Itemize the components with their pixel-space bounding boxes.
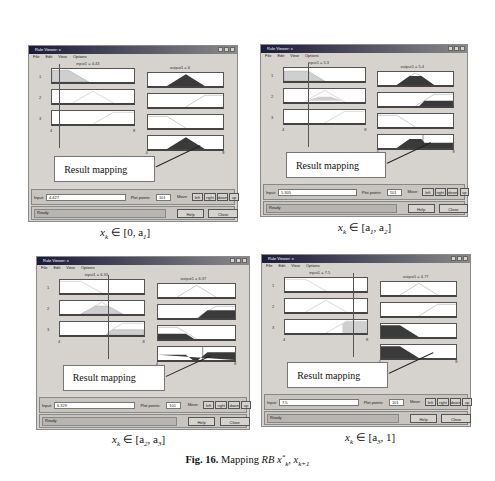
help-button[interactable]: Help <box>177 209 204 218</box>
help-button[interactable]: Help <box>410 414 437 423</box>
menu-edit[interactable]: Edit <box>45 54 52 60</box>
close-window-button[interactable] <box>230 47 235 52</box>
minimize-button[interactable] <box>218 47 223 52</box>
close-button[interactable]: Close <box>439 204 468 213</box>
minimize-button[interactable] <box>230 258 235 263</box>
input-field[interactable]: 5.305 <box>278 189 357 196</box>
move-down-button[interactable]: down <box>450 398 462 406</box>
input-cursor-line[interactable] <box>308 63 309 147</box>
help-button[interactable]: Help <box>408 204 435 213</box>
output-axis-max: 8 <box>234 361 236 366</box>
input-mf-plot[interactable] <box>284 277 368 293</box>
menu-options[interactable]: Options <box>305 53 319 59</box>
maximize-button[interactable] <box>457 256 462 261</box>
output-axis-max: 8 <box>452 149 454 154</box>
move-right-button[interactable]: right <box>435 188 446 196</box>
input-mf-plot[interactable] <box>59 300 145 316</box>
status-panel: Ready Help Close <box>39 414 247 428</box>
input-cursor-line[interactable] <box>353 273 354 357</box>
input-mf-plot[interactable] <box>51 68 135 84</box>
output-mf-plot[interactable] <box>147 93 225 109</box>
input-mf-plot[interactable] <box>59 279 145 295</box>
window-title: Rule Viewer: x <box>267 45 293 53</box>
rule-viewer-window-3: Rule Viewer: x File Edit View Options in… <box>36 256 250 430</box>
output-mf-plot[interactable] <box>380 281 458 297</box>
move-left-button[interactable]: left <box>203 401 215 409</box>
menu-edit[interactable]: Edit <box>278 263 285 269</box>
output-mf-plot[interactable] <box>377 92 454 108</box>
close-window-button[interactable] <box>463 256 468 261</box>
maximize-button[interactable] <box>224 47 229 52</box>
move-left-button[interactable]: left <box>425 398 437 406</box>
menu-file[interactable]: File <box>265 53 271 59</box>
move-right-button[interactable]: right <box>437 398 449 406</box>
close-window-button[interactable] <box>460 46 465 51</box>
input-mf-plot[interactable] <box>284 298 368 314</box>
minimize-button[interactable] <box>451 256 456 261</box>
status-panel: Ready Help Close <box>31 206 235 220</box>
input-cursor-line[interactable] <box>108 275 109 359</box>
menu-view[interactable]: View <box>291 263 300 269</box>
plot-points-field[interactable]: 101 <box>156 194 171 201</box>
input-field[interactable]: 4.427 <box>46 194 126 201</box>
output-mf-plot[interactable] <box>147 72 225 88</box>
close-button[interactable]: Close <box>208 209 237 218</box>
callout-pointer-icon <box>388 350 434 376</box>
output-mf-plot[interactable] <box>157 304 236 320</box>
close-window-button[interactable] <box>242 258 247 263</box>
input-cursor-line[interactable] <box>59 64 60 148</box>
minimize-button[interactable] <box>448 46 453 51</box>
move-left-button[interactable]: left <box>422 188 433 196</box>
menu-file[interactable]: File <box>33 54 39 60</box>
move-right-button[interactable]: right <box>215 401 227 409</box>
input-mf-plot[interactable] <box>283 67 366 83</box>
move-up-button[interactable]: up <box>460 188 469 196</box>
input-mf-plot[interactable] <box>283 88 366 104</box>
close-button[interactable]: Close <box>441 414 470 423</box>
input-field[interactable]: 6.329 <box>54 402 135 409</box>
plot-points-field[interactable]: 101 <box>389 399 404 406</box>
move-up-button[interactable]: up <box>229 193 238 201</box>
output-mf-plot[interactable] <box>147 114 225 130</box>
plot-points-field[interactable]: 101 <box>166 402 181 409</box>
output-mf-plot[interactable] <box>157 325 236 341</box>
input-mf-plot[interactable] <box>283 109 366 125</box>
menu-options[interactable]: Options <box>81 265 95 271</box>
move-up-button[interactable]: up <box>241 401 251 409</box>
close-button[interactable]: Close <box>220 417 250 426</box>
output-mf-plot[interactable] <box>377 113 454 129</box>
menu-view[interactable]: View <box>58 54 67 60</box>
output-mf-plot[interactable] <box>157 283 236 299</box>
membership-function-icon <box>60 280 144 293</box>
menu-options[interactable]: Options <box>306 263 320 269</box>
membership-function-icon <box>284 68 365 81</box>
menu-edit[interactable]: Edit <box>53 265 60 271</box>
membership-function-icon <box>378 93 453 106</box>
output-mf-plot[interactable] <box>380 302 458 318</box>
input-mf-plot[interactable] <box>284 319 368 335</box>
move-left-button[interactable]: left <box>192 193 204 201</box>
input-mf-plot[interactable] <box>51 110 135 126</box>
rule-number: 3 <box>272 325 274 330</box>
input-mf-plot[interactable] <box>59 321 145 337</box>
plot-points-field[interactable]: 101 <box>387 189 402 196</box>
move-down-button[interactable]: down <box>217 193 229 201</box>
output-mf-plot[interactable] <box>377 71 454 87</box>
menu-options[interactable]: Options <box>73 54 87 60</box>
move-down-button[interactable]: down <box>447 188 458 196</box>
menu-edit[interactable]: Edit <box>277 53 284 59</box>
menu-view[interactable]: View <box>290 53 299 59</box>
output-mf-plot[interactable] <box>380 323 458 339</box>
move-right-button[interactable]: right <box>204 193 216 201</box>
menu-view[interactable]: View <box>66 265 75 271</box>
maximize-button[interactable] <box>236 258 241 263</box>
help-button[interactable]: Help <box>188 417 216 426</box>
move-up-button[interactable]: up <box>462 398 471 406</box>
menu-file[interactable]: File <box>266 263 272 269</box>
menu-file[interactable]: File <box>41 265 47 271</box>
input-mf-plot[interactable] <box>51 89 135 105</box>
input-field[interactable]: 7.5 <box>279 399 359 406</box>
membership-function-icon <box>285 278 367 291</box>
move-down-button[interactable]: down <box>228 401 240 409</box>
maximize-button[interactable] <box>454 46 459 51</box>
